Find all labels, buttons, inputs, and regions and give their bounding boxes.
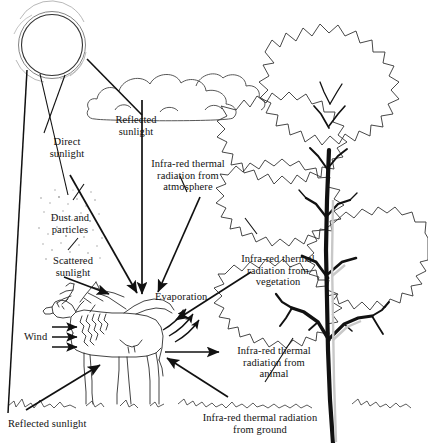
- label-infrared-animal: Infra-red thermal radiation from animal: [224, 345, 324, 380]
- label-direct-sunlight: Direct sunlight: [38, 136, 96, 159]
- leader-infrared-vegetation: [245, 218, 257, 234]
- label-scattered-sunlight: Scattered sunlight: [40, 255, 106, 278]
- figure-canvas: Direct sunlight Reflected sunlight Infra…: [0, 0, 428, 443]
- ground-line: [6, 399, 428, 408]
- arrow-scattered-sunlight: [64, 277, 109, 294]
- label-dust-and-particles: Dust and particles: [38, 212, 102, 235]
- label-infrared-vegetation: Infra-red thermal radiation from vegetat…: [230, 253, 326, 288]
- tree-icon: [214, 24, 428, 443]
- arrow-infrared-atmosphere: [158, 197, 200, 292]
- label-wind: Wind: [24, 331, 64, 343]
- arrow-evaporation: [163, 309, 199, 342]
- sun-icon: [14, 1, 86, 82]
- label-reflected-sunlight-cloud: Reflected sunlight: [104, 114, 168, 137]
- label-reflected-sunlight-ground: Reflected sunlight: [8, 418, 128, 430]
- label-evaporation: Evaporation: [155, 291, 227, 303]
- label-infrared-atmosphere: Infra-red thermal radiation from atmosph…: [140, 158, 236, 193]
- ray-lines: [8, 70, 84, 413]
- label-infrared-ground: Infra-red thermal radiation from ground: [177, 412, 343, 435]
- arrow-infrared-ground: [167, 358, 228, 397]
